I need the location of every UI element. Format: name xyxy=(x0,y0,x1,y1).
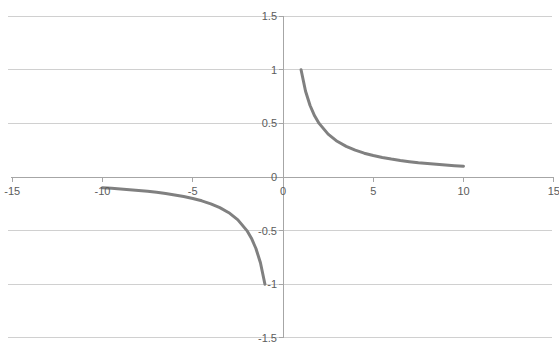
y-tick-label: 0 xyxy=(271,171,277,183)
x-tick-label: 15 xyxy=(548,185,559,197)
series-line-0 xyxy=(103,188,265,284)
x-tick-label: -10 xyxy=(95,185,111,197)
y-tick-label: 1.5 xyxy=(262,10,277,22)
chart-canvas: -15-10-5051015 1.510.50-0.5-1-1.5 xyxy=(0,0,559,346)
plot-area xyxy=(0,0,559,346)
y-tick-label: -1 xyxy=(267,278,277,290)
y-tick-label: -1.5 xyxy=(258,332,277,344)
series-line-1 xyxy=(301,70,463,166)
x-tick-label: 10 xyxy=(457,185,469,197)
x-tick-label: -5 xyxy=(188,185,198,197)
y-tick-label: 0.5 xyxy=(262,117,277,129)
y-tick-label: -0.5 xyxy=(258,225,277,237)
x-tick-label: 0 xyxy=(280,185,286,197)
x-tick-label: -15 xyxy=(4,185,20,197)
x-tick-label: 5 xyxy=(370,185,376,197)
y-tick-label: 1 xyxy=(271,64,277,76)
